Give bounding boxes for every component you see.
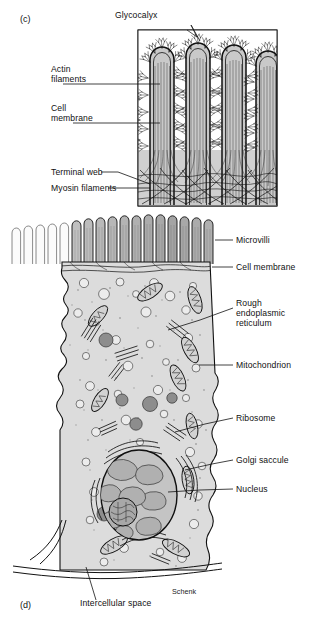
label-intercellular-space: Intercellular space — [80, 598, 151, 608]
panel-d-artwork — [12, 215, 222, 579]
label-nucleus: Nucleus — [236, 484, 268, 494]
artist-signature: Schenk — [172, 587, 196, 596]
label-terminal-web: Terminal web — [51, 167, 103, 177]
label-rough-er: Rough endoplasmic reticulum — [236, 298, 285, 329]
label-glycocalyx: Glycocalyx — [115, 10, 157, 20]
label-myosin-filaments: Myosin filaments — [51, 183, 116, 193]
label-mitochondrion: Mitochondrion — [236, 360, 291, 370]
label-cell-membrane-d: Cell membrane — [236, 262, 295, 272]
label-microvilli: Microvilli — [236, 235, 270, 245]
panel-d-id: (d) — [20, 600, 31, 610]
label-golgi-saccule: Golgi saccule — [236, 455, 289, 465]
figure-canvas: (c) Glycocalyx Actin filaments Cell memb… — [0, 0, 313, 622]
label-actin-filaments: Actin filaments — [51, 64, 86, 84]
label-cell-membrane-c: Cell membrane — [51, 103, 93, 123]
panel-c-id: (c) — [20, 14, 31, 24]
panel-c-artwork — [130, 30, 293, 206]
label-ribosome: Ribosome — [236, 413, 275, 423]
